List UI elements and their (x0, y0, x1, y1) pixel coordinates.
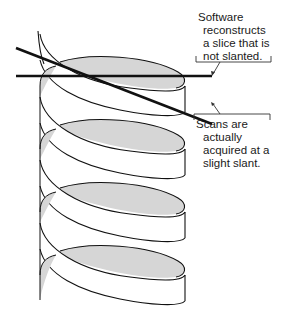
annotation-line: Scans are (196, 118, 270, 131)
annotation-line: Software (198, 11, 269, 24)
acquired-slant-annotation: Scans are actually acquired at a slight … (196, 118, 270, 170)
reconstructed-slice-annotation: Software reconstructs a slice that is no… (198, 11, 269, 63)
annotation-line: a slice that is (198, 37, 269, 50)
annotation-line: not slanted. (198, 50, 269, 63)
bottom-label-pointer (213, 104, 220, 114)
annotation-line: actually (196, 131, 270, 144)
annotation-line: slight slant. (196, 157, 270, 170)
annotation-line: reconstructs (198, 24, 269, 37)
annotation-line: acquired at a (196, 144, 270, 157)
